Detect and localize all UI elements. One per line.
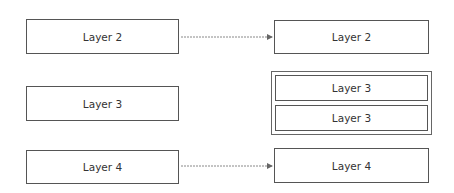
connector-layer [0, 0, 454, 193]
